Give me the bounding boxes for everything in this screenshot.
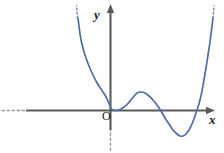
y-axis-label: y xyxy=(94,8,100,21)
y-axis-arrowhead-icon xyxy=(107,4,114,13)
graph-figure: y x O xyxy=(0,0,224,153)
x-axis-label: x xyxy=(209,113,216,126)
quartic-curve xyxy=(78,18,213,136)
curve-dotted-continuation-right xyxy=(213,6,214,18)
curve-dotted-continuation-left xyxy=(77,6,78,18)
origin-label: O xyxy=(102,110,111,122)
plot-canvas xyxy=(0,0,224,153)
